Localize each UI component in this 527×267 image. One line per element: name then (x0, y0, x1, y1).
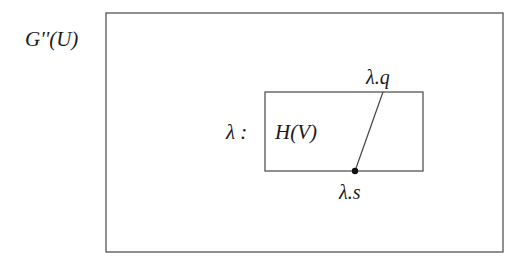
segment-endpoint-dot (352, 168, 358, 174)
inner-box-label: H(V) (274, 120, 317, 144)
diagram-canvas: G''(U) λ : H(V) λ.q λ.s (0, 0, 527, 267)
segment-top-label: λ.q (365, 66, 390, 89)
segment-line (355, 92, 383, 171)
outer-box-label: G''(U) (25, 27, 78, 51)
segment-bottom-label: λ.s (338, 181, 361, 203)
lambda-prefix: λ : (225, 120, 247, 144)
